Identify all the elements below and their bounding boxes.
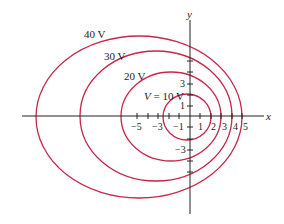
equipotential-diagram: x y −5 −3 −1 1 2 3 4 5 3 1 −3 V = 10 V 2… xyxy=(0,0,284,224)
x-tick-label: −1 xyxy=(173,121,184,132)
y-axis-label: y xyxy=(186,8,192,20)
x-tick-label: 2 xyxy=(211,121,216,132)
y-tick-label: 3 xyxy=(180,78,185,89)
axes xyxy=(22,20,264,214)
curve-label-40v: 40 V xyxy=(84,28,106,40)
x-tick-label: 1 xyxy=(198,121,203,132)
x-tick-label: 4 xyxy=(233,121,238,132)
x-tick-label: −5 xyxy=(131,121,142,132)
x-tick-label: 3 xyxy=(222,121,227,132)
curve-label-10v: V = 10 V xyxy=(144,90,184,102)
x-axis-label: x xyxy=(265,110,271,122)
curve-label-30v: 30 V xyxy=(104,50,126,62)
y-tick-label: −3 xyxy=(175,144,186,155)
x-tick-label: 5 xyxy=(243,121,248,132)
x-tick-label: −3 xyxy=(152,121,163,132)
curve-label-20v: 20 V xyxy=(124,70,146,82)
